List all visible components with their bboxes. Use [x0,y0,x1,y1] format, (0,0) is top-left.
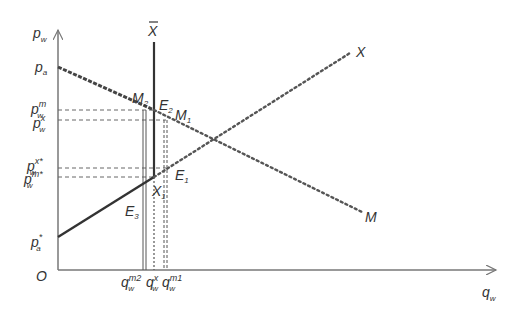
m-curve [154,110,362,212]
y-axis-label: pw [32,25,48,44]
xbar-label: X [147,23,158,39]
tick-pas: p*a [30,232,43,253]
tick-pwx: pxw [32,113,46,134]
point-m1: M1 [175,107,191,125]
m-curve-label: M [365,209,377,225]
quantity-m2-line [143,110,146,270]
origin-label: O [36,268,47,284]
tick-qm1: qm1w [162,273,182,293]
x-axis-label: qw [482,284,497,303]
diagram-canvas: pw qw O pa pmw pxw px*w pm*w p*a qm2w qx… [0,0,517,312]
price-guides [58,110,166,177]
x-curve-label: X [355,44,366,60]
tick-qx: qxw [146,273,159,293]
point-e1: E1 [175,167,189,185]
x-curve-lower [58,177,154,237]
tick-qm2: qm2w [121,273,141,293]
point-e2: E2 [159,97,173,115]
tick-pwms: pm*w [23,169,43,190]
tick-pa: pa [34,59,48,77]
point-m2: M2 [132,90,149,108]
point-e3: E3 [125,203,139,221]
